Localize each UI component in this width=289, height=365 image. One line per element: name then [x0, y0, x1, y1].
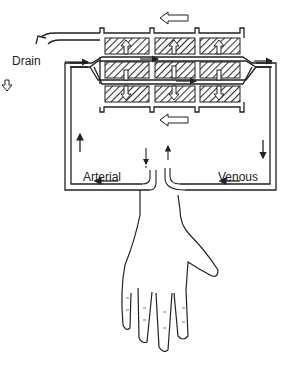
venous-label: Venous — [218, 170, 258, 184]
arterial-label: Arterial — [83, 170, 121, 184]
needles — [142, 146, 185, 190]
hand-with-fistula — [122, 190, 218, 351]
drain-label: Drain — [12, 54, 41, 68]
